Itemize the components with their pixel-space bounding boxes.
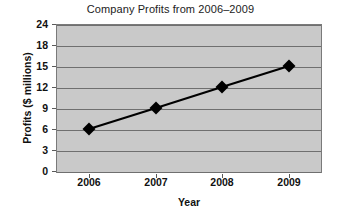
- y-tick-mark: [52, 171, 56, 172]
- data-point-marker: [83, 123, 96, 136]
- x-axis-title: Year: [56, 196, 322, 208]
- data-point-marker: [150, 102, 163, 115]
- y-tick-mark: [52, 24, 56, 25]
- x-tick-label: 2008: [192, 177, 252, 188]
- y-tick-label: 15: [2, 61, 48, 72]
- y-tick-label: 0: [2, 166, 48, 177]
- y-tick-mark: [52, 108, 56, 109]
- y-tick-label: 18: [2, 40, 48, 51]
- data-line: [89, 66, 289, 129]
- x-tick-label: 2009: [259, 177, 319, 188]
- y-tick-label: 24: [2, 19, 48, 30]
- y-tick-label: 12: [2, 82, 48, 93]
- y-tick-mark: [52, 66, 56, 67]
- y-tick-mark: [52, 150, 56, 151]
- y-tick-label: 3: [2, 145, 48, 156]
- y-tick-mark: [52, 45, 56, 46]
- y-tick-mark: [52, 129, 56, 130]
- data-point-marker: [216, 81, 229, 94]
- chart-title: Company Profits from 2006–2009: [0, 3, 341, 15]
- y-tick-label: 6: [2, 124, 48, 135]
- chart-container: Company Profits from 2006–2009 Profits (…: [0, 0, 341, 215]
- y-tick-mark: [52, 87, 56, 88]
- data-series-layer: [56, 24, 322, 173]
- x-tick-label: 2007: [126, 177, 186, 188]
- x-tick-label: 2006: [59, 177, 119, 188]
- y-tick-label: 9: [2, 103, 48, 114]
- data-point-marker: [283, 60, 296, 73]
